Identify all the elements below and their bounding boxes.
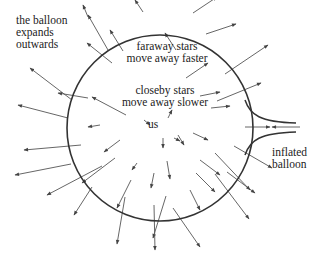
label-line: the balloon: [16, 14, 67, 26]
label-closeby-stars: closeby stars move away slower: [110, 84, 220, 108]
label-inflated-balloon: inflated balloon: [272, 146, 307, 170]
arrow: [87, 43, 112, 63]
arrow: [193, 0, 217, 13]
label-line: closeby stars: [110, 84, 220, 96]
arrow: [132, 163, 137, 170]
arrow: [18, 105, 68, 118]
arrow: [82, 158, 115, 183]
arrow: [154, 205, 155, 250]
arrow: [234, 146, 272, 168]
label-line: outwards: [16, 38, 67, 50]
arrow: [196, 173, 215, 192]
arrow: [88, 125, 100, 127]
label-faraway-stars: faraway stars move away faster: [112, 40, 222, 64]
label-balloon-expands: the balloon expands outwards: [16, 14, 67, 50]
arrow: [151, 173, 154, 188]
arrow: [168, 110, 172, 118]
arrow: [215, 174, 249, 219]
arrow: [30, 68, 72, 100]
arrow: [47, 166, 102, 195]
label-line: inflated: [272, 146, 307, 158]
label-line: move away slower: [110, 96, 220, 108]
label-line: faraway stars: [112, 40, 222, 52]
label-us: us: [148, 118, 158, 130]
arrow: [174, 138, 180, 141]
arrow: [190, 190, 200, 210]
arrow: [15, 164, 71, 175]
label-line: balloon: [272, 158, 307, 170]
arrow: [117, 197, 125, 244]
arrow: [186, 63, 208, 78]
arrow: [215, 153, 250, 190]
arrow: [88, 15, 108, 50]
arrow: [135, 0, 143, 12]
arrow: [167, 161, 170, 179]
arrow: [193, 133, 208, 140]
arrow: [83, 5, 88, 17]
arrow: [206, 24, 236, 34]
balloon-expansion-diagram: the balloon expands outwards faraway sta…: [0, 0, 326, 259]
label-line: expands: [16, 26, 67, 38]
label-line: move away faster: [112, 52, 222, 64]
arrow: [200, 160, 220, 175]
arrow: [104, 140, 120, 152]
arrow: [217, 83, 261, 101]
arrow: [74, 187, 92, 215]
arrow: [24, 145, 81, 150]
